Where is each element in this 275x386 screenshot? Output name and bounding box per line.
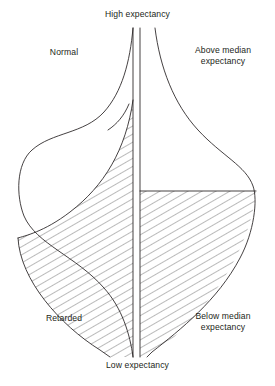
label-low-expectancy: Low expectancy: [0, 360, 275, 371]
diagram-canvas: High expectancy Normal Above median expe…: [0, 0, 275, 386]
label-above-median-expectancy: Above median expectancy: [176, 45, 270, 66]
label-retarded: Retarded: [18, 313, 110, 324]
label-normal: Normal: [18, 47, 110, 58]
label-below-median-expectancy: Below median expectancy: [176, 311, 270, 332]
label-high-expectancy: High expectancy: [0, 9, 275, 20]
left-hatch-start-tick: [108, 104, 129, 130]
